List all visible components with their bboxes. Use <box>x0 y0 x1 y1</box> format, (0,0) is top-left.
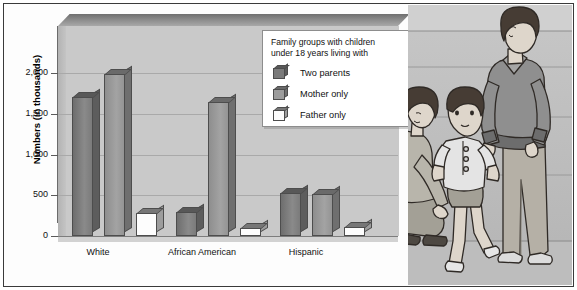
y-axis-title: Numbers (in thousands) <box>31 40 42 180</box>
legend-swatch-front <box>273 68 285 79</box>
legend-entries: Two parentsMother onlyFather only <box>271 62 402 125</box>
legend-swatch-icon <box>273 108 287 121</box>
bar-african-american-mother-only <box>208 102 229 236</box>
bar-african-american-father-only <box>240 228 261 236</box>
bar-side-face <box>125 65 132 232</box>
bar-hispanic-father-only <box>344 227 365 236</box>
legend-swatch-icon <box>273 87 287 100</box>
bar-front-face <box>176 212 197 236</box>
legend-swatch-front <box>273 110 285 121</box>
bar-white-mother-only <box>104 74 125 236</box>
legend-label: Father only <box>300 110 346 120</box>
legend-entry-mother-only: Mother only <box>271 83 402 104</box>
bar-front-face <box>136 213 157 236</box>
y-tick-0 <box>51 236 58 237</box>
bar-side-face <box>229 93 236 232</box>
y-axis-line <box>57 26 58 223</box>
bar-front-face <box>312 194 333 236</box>
y-tick-1,000 <box>51 155 58 156</box>
legend-swatch-front <box>273 89 285 100</box>
family-illustration-svg <box>408 5 572 285</box>
category-label-white: White <box>50 247 146 257</box>
bar-front-face <box>208 102 229 236</box>
legend-swatch-icon <box>273 66 287 79</box>
y-tick-2,000 <box>51 73 58 74</box>
legend-entry-two-parents: Two parents <box>271 62 402 83</box>
bar-white-father-only <box>136 213 157 236</box>
y-tick-1,500 <box>51 114 58 115</box>
legend-title-line-2: under 18 years living with <box>271 48 402 59</box>
legend-label: Two parents <box>300 68 350 78</box>
legend-label: Mother only <box>300 89 348 99</box>
figure-page: 05001,0001,5002,000 WhiteAfrican America… <box>0 0 577 290</box>
y-axis-title-container: Numbers (in thousands) <box>10 0 50 290</box>
bar-african-american-two-parents <box>176 212 197 236</box>
bar-hispanic-mother-only <box>312 194 333 236</box>
chart-wall-top <box>58 14 410 26</box>
category-label-hispanic: Hispanic <box>258 247 354 257</box>
bar-side-face <box>93 89 100 232</box>
family-photo-illustration <box>408 5 572 285</box>
bar-front-face <box>344 227 365 236</box>
bar-front-face <box>72 97 93 236</box>
bar-front-face <box>104 74 125 236</box>
bar-white-two-parents <box>72 97 93 236</box>
chart-legend: Family groups with children under 18 yea… <box>262 30 410 127</box>
y-tick-500 <box>51 195 58 196</box>
axis-baseline <box>58 236 398 237</box>
chart-wall-left-edge <box>58 26 66 236</box>
bar-front-face <box>240 228 261 236</box>
legend-entry-father-only: Father only <box>271 104 402 125</box>
category-label-african-american: African American <box>154 247 250 257</box>
bar-hispanic-two-parents <box>280 193 301 236</box>
bar-front-face <box>280 193 301 236</box>
legend-title-line-1: Family groups with children <box>271 37 402 48</box>
